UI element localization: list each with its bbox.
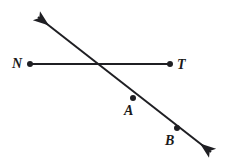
geometry-figure: N T A B xyxy=(0,0,229,168)
line-ab-ray xyxy=(38,17,211,152)
point-a-dot xyxy=(130,95,136,101)
point-n-dot xyxy=(27,61,33,67)
point-label-a: A xyxy=(124,104,133,118)
point-label-t: T xyxy=(177,58,186,72)
point-b-dot xyxy=(174,125,180,131)
geometry-canvas xyxy=(0,0,229,168)
point-t-dot xyxy=(167,61,173,67)
point-label-b: B xyxy=(165,134,174,148)
point-label-n: N xyxy=(12,57,22,71)
